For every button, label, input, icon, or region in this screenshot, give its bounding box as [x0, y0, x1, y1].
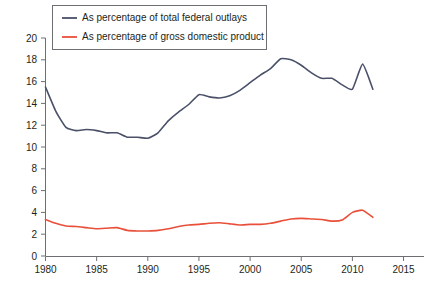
series-line-1: [46, 58, 373, 138]
legend-label-2: As percentage of gross domestic product: [82, 31, 264, 42]
y-tick-label: 4: [31, 207, 37, 218]
x-tick-label: 2005: [290, 264, 313, 275]
x-tick-label: 2015: [392, 264, 415, 275]
legend-label-1: As percentage of total federal outlays: [82, 12, 247, 23]
y-axis-ticks: 02468101214161820: [26, 33, 46, 262]
y-tick-label: 6: [31, 185, 37, 196]
y-axis: 02468101214161820: [26, 33, 46, 262]
x-tick-label: 1990: [137, 264, 160, 275]
y-tick-label: 10: [26, 142, 38, 153]
x-tick-label: 2000: [239, 264, 262, 275]
y-tick-label: 14: [26, 98, 38, 109]
y-tick-label: 18: [26, 54, 38, 65]
y-tick-label: 2: [31, 229, 37, 240]
series-line-2: [46, 210, 373, 231]
x-axis: 19801985199019952000200520102015: [34, 257, 424, 276]
x-axis-ticks: 19801985199019952000200520102015: [34, 257, 415, 276]
x-tick-label: 1980: [34, 264, 57, 275]
chart-page: 02468101214161820 1980198519901995200020…: [0, 0, 436, 291]
y-tick-label: 8: [31, 163, 37, 174]
x-tick-label: 2010: [341, 264, 364, 275]
y-tick-label: 0: [31, 251, 37, 262]
line-chart: 02468101214161820 1980198519901995200020…: [0, 0, 436, 291]
legend: As percentage of total federal outlaysAs…: [53, 6, 267, 50]
series-group: [46, 58, 373, 230]
y-tick-label: 12: [26, 120, 38, 131]
x-tick-label: 1995: [188, 264, 211, 275]
y-tick-label: 16: [26, 76, 38, 87]
x-tick-label: 1985: [86, 264, 109, 275]
y-tick-label: 20: [26, 33, 38, 44]
